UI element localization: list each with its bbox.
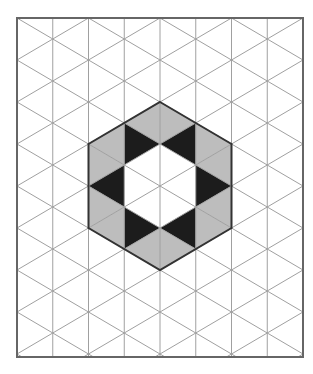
triangle-grid-diagram bbox=[0, 0, 313, 374]
diagram-svg bbox=[0, 0, 313, 374]
